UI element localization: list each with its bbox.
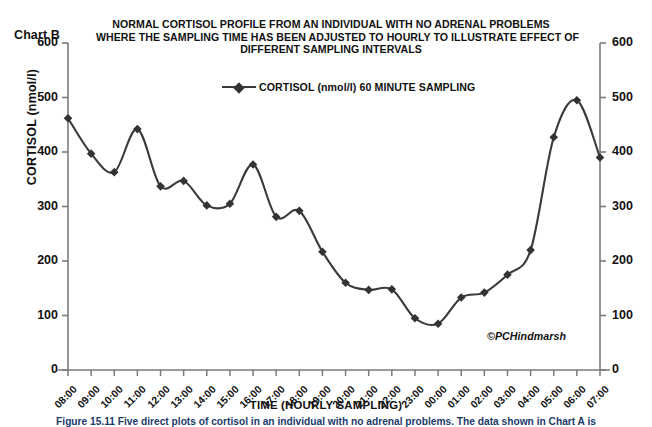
legend-label: CORTISOL (nmol/l) 60 MINUTE SAMPLING [259, 81, 475, 93]
legend: CORTISOL (nmol/l) 60 MINUTE SAMPLING [222, 81, 475, 93]
data-point-0500 [549, 133, 558, 142]
y-tick-right-100: 100 [612, 308, 652, 322]
y-tick-left-300: 300 [12, 199, 58, 213]
y-tick-left-600: 600 [12, 35, 58, 49]
data-point-0400 [526, 246, 535, 255]
data-point-0700 [596, 153, 605, 162]
figure-caption: Figure 15.11 Five direct plots of cortis… [0, 416, 652, 427]
y-tick-right-400: 400 [612, 144, 652, 158]
y-tick-right-300: 300 [612, 199, 652, 213]
x-axis-label: TIME (HOURLY SAMPLING) [0, 399, 652, 411]
legend-marker-diamond-icon [222, 86, 256, 88]
data-series [64, 96, 605, 328]
y-tick-right-500: 500 [612, 90, 652, 104]
y-tick-right-0: 0 [612, 362, 652, 376]
data-point-2100 [364, 286, 373, 295]
credit-text: ©PCHindmarsh [487, 330, 566, 342]
y-tick-right-200: 200 [612, 253, 652, 267]
y-tick-left-0: 0 [12, 362, 58, 376]
y-tick-left-200: 200 [12, 253, 58, 267]
y-tick-left-400: 400 [12, 144, 58, 158]
y-tick-left-100: 100 [12, 308, 58, 322]
y-tick-left-500: 500 [12, 90, 58, 104]
y-tick-right-600: 600 [612, 35, 652, 49]
data-point-0200 [480, 288, 489, 297]
